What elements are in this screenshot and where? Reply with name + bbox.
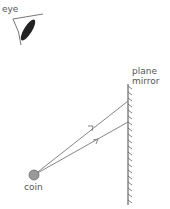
light-rays bbox=[34, 101, 128, 175]
eye-icon bbox=[13, 14, 43, 45]
ray-lower bbox=[34, 122, 128, 175]
eye-label: eye bbox=[2, 4, 19, 14]
plane-mirror-ray-diagram: eye plane mirror bbox=[0, 0, 170, 209]
mirror-label-line2: mirror bbox=[132, 76, 160, 86]
ray-upper bbox=[34, 101, 128, 175]
coin-icon bbox=[29, 170, 39, 180]
plane-mirror bbox=[128, 84, 132, 205]
coin-label: coin bbox=[24, 182, 43, 192]
mirror-label-line1: plane bbox=[132, 66, 157, 76]
